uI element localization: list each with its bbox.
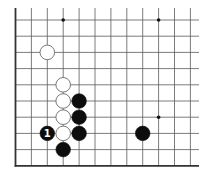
move-number-label: 1 — [44, 128, 51, 139]
white-stone-icon — [56, 94, 71, 109]
black-stone — [72, 126, 87, 141]
white-stone-icon — [56, 110, 71, 125]
black-stone — [56, 142, 71, 157]
white-stone-icon — [40, 45, 55, 60]
black-stone — [135, 126, 150, 141]
black-stone-icon — [72, 126, 87, 141]
white-stone — [56, 126, 71, 141]
white-stone-icon — [56, 126, 71, 141]
white-stone — [40, 45, 55, 60]
black-stone-icon — [135, 126, 150, 141]
white-stone — [56, 78, 71, 93]
black-stone — [72, 110, 87, 125]
black-stone: 1 — [40, 126, 55, 141]
star-point-icon — [157, 18, 161, 22]
board-background — [0, 0, 213, 180]
black-stone-icon — [56, 142, 71, 157]
white-stone — [56, 110, 71, 125]
star-point-icon — [157, 115, 161, 119]
white-stone — [56, 94, 71, 109]
white-stone-icon — [56, 78, 71, 93]
black-stone-icon — [72, 94, 87, 109]
go-board-diagram: 1 — [0, 0, 213, 180]
black-stone-icon — [72, 110, 87, 125]
black-stone — [72, 94, 87, 109]
star-point-icon — [61, 18, 65, 22]
